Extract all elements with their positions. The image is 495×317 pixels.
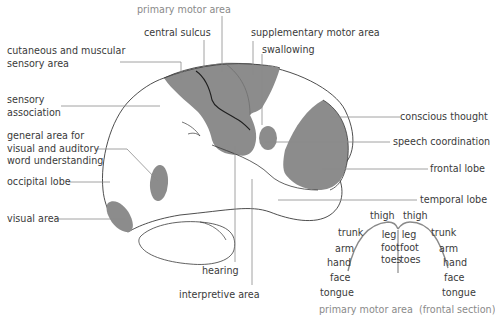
fs-right-hand: hand <box>443 257 467 270</box>
fs-left-arm: arm <box>335 243 354 256</box>
cerebellum-outline <box>139 222 235 265</box>
fs-right-trunk: trunk <box>431 227 456 240</box>
fs-right-face: face <box>444 272 464 285</box>
label-speech-coordination: speech coordination <box>393 136 490 149</box>
fs-left-hand: hand <box>327 257 351 270</box>
fs-inner-right: leg foot toes <box>400 229 418 267</box>
fs-right-tongue: tongue <box>442 287 476 300</box>
label-interpretive-area: interpretive area <box>179 289 260 302</box>
label-primary-motor-area: primary motor area <box>137 4 231 17</box>
speech-coordination-region <box>259 126 277 150</box>
fs-right-arm: arm <box>439 243 458 256</box>
label-occipital-lobe: occipital lobe <box>7 176 71 189</box>
label-supplementary-motor-area: supplementary motor area <box>251 27 380 40</box>
label-frontal-lobe: frontal lobe <box>430 163 485 176</box>
label-central-sulcus: central sulcus <box>144 27 211 40</box>
fs-left-tongue: tongue <box>320 287 354 300</box>
label-temporal-lobe: temporal lobe <box>420 194 487 207</box>
label-general-area-word-understanding: general area for visual and auditory wor… <box>7 130 103 168</box>
label-swallowing: swallowing <box>262 44 315 57</box>
label-visual-area: visual area <box>7 213 59 226</box>
label-hearing: hearing <box>202 265 239 278</box>
fs-inner-left: leg foot toes <box>381 229 397 267</box>
fs-left-thigh: thigh <box>370 210 395 223</box>
fs-left-trunk: trunk <box>338 227 363 240</box>
label-cutaneous-muscular-sensory-area: cutaneous and muscular sensory area <box>7 45 125 70</box>
fs-right-thigh: thigh <box>403 210 428 223</box>
frontal-section-caption: primary motor area (frontal section) <box>319 304 495 317</box>
fs-left-face: face <box>330 272 350 285</box>
label-sensory-association: sensory association <box>7 94 61 119</box>
label-conscious-thought: conscious thought <box>400 111 488 124</box>
